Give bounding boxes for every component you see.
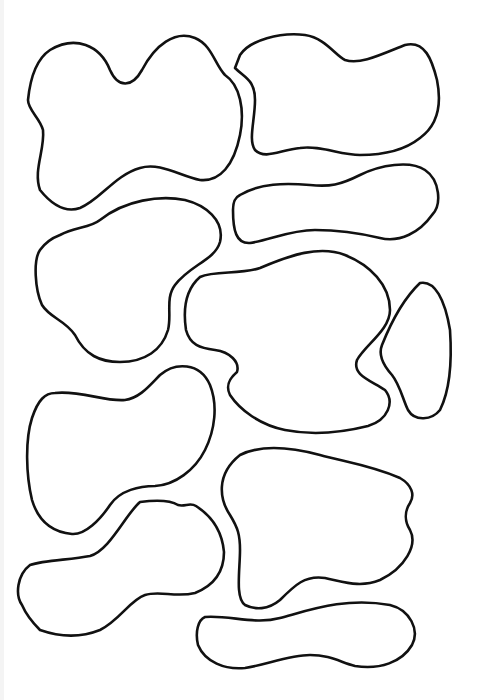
blob-drawing	[0, 0, 477, 700]
left-page-edge	[0, 0, 4, 700]
blob-3-outline	[233, 165, 438, 244]
blob-10-outline	[197, 602, 415, 668]
drawing-canvas	[0, 0, 477, 700]
blob-4-outline	[36, 198, 221, 362]
blob-9-outline	[18, 501, 224, 636]
blob-6-outline	[381, 283, 451, 419]
blob-8-outline	[222, 448, 413, 608]
blob-1-outline	[28, 36, 242, 210]
blob-2-outline	[235, 34, 439, 155]
blob-7-outline	[27, 366, 214, 534]
